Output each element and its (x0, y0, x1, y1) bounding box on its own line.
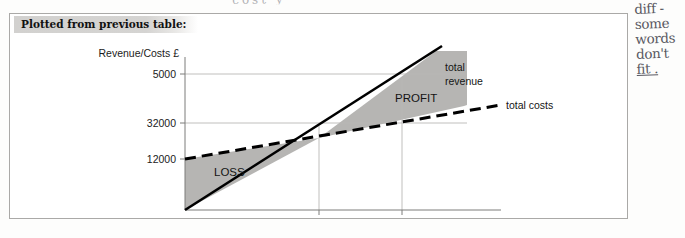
loss-region-label: LOSS (214, 166, 245, 178)
total-revenue-label-line1: total (445, 61, 465, 73)
y-axis-title: Revenue/Costs £ (98, 47, 179, 59)
profit-region-label: PROFIT (395, 92, 437, 104)
handwritten-line-5: fit . (636, 60, 685, 77)
y-tick-label-2: 32000 (147, 117, 176, 129)
y-tick-label-1: 5000 (153, 68, 177, 80)
x-axis-title: Output (457, 217, 489, 219)
total-revenue-line (185, 46, 442, 210)
x-tick-label-2000: 2000 (307, 217, 331, 219)
y-tick-label-3: 12000 (147, 153, 176, 165)
total-costs-label: total costs (506, 99, 553, 111)
total-costs-line (185, 105, 501, 159)
x-tick-label-5000: 5000 (390, 217, 414, 219)
chart-shaded-regions (185, 51, 467, 210)
loss-region-fill (185, 138, 319, 210)
total-revenue-label-line2: revenue (445, 75, 483, 87)
break-even-chart: Revenue/Costs £ 5000 32000 12000 2000 50… (9, 13, 628, 219)
handwritten-margin-note: diff - some words don't fit . (634, 0, 685, 77)
